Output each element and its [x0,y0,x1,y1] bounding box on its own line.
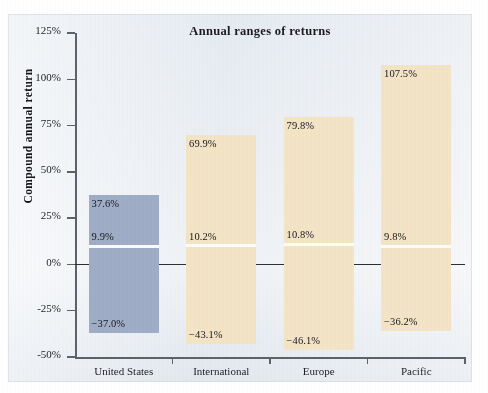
y-axis-tick-label: -50% [17,348,61,360]
x-axis-category-label: Europe [270,365,368,377]
x-axis-category-label: International [173,365,271,377]
bar-low-value-label: −37.0% [92,318,126,329]
bar-mid-value-label: 9.8% [384,231,406,242]
y-axis-tick-label: 75% [17,117,61,129]
x-axis-tick [464,357,465,364]
cut-off-caption-text [46,0,446,10]
y-axis-tick-label: 25% [17,209,61,221]
y-axis-tick: 100% [67,79,75,80]
bar-low-value-label: −46.1% [287,335,321,346]
y-axis-label: Compound annual return [22,66,34,206]
bar-high-value-label: 37.6% [92,198,120,209]
x-axis-tick [367,357,368,364]
y-axis-tick: 125% [67,32,75,33]
bar-low-value-label: −36.2% [384,316,418,327]
y-axis-tick-label: 50% [17,163,61,175]
bar-column[interactable]: 107.5%9.8%−36.2% [368,33,466,357]
y-axis-tick-label: 0% [17,256,61,268]
bar-median-divider [186,244,256,247]
bar-column[interactable]: 69.9%10.2%−43.1% [173,33,271,357]
bar-median-divider [381,245,451,248]
x-axis-category-label: Pacific [368,365,466,377]
bar-median-divider [89,245,159,248]
bar-range-rect[interactable] [381,65,451,331]
y-axis-tick-label: -25% [17,302,61,314]
bar-high-value-label: 69.9% [189,138,217,149]
bar-range-rect[interactable] [89,195,159,333]
y-axis-tick: -50% [67,356,75,357]
chart-page: Annual ranges of returns Compound annual… [0,0,488,393]
y-axis-tick-label: 100% [17,71,61,83]
x-axis-category-label: United States [75,365,173,377]
bar-median-divider [284,243,354,246]
y-axis-tick: 0% [67,264,75,265]
plot-area: 125%100%75%50%25%0%-25%-50% 37.6%9.9%−37… [75,33,465,357]
bar-low-value-label: −43.1% [189,329,223,340]
x-axis-tick [172,357,173,364]
y-axis-tick: 75% [67,125,75,126]
bar-column[interactable]: 79.8%10.8%−46.1% [270,33,368,357]
bar-mid-value-label: 9.9% [92,231,114,242]
bar-mid-value-label: 10.2% [189,231,217,242]
x-axis-tick [269,357,270,364]
y-axis-tick: -25% [67,310,75,311]
bar-high-value-label: 79.8% [287,120,315,131]
y-axis-tick-label: 125% [17,24,61,36]
y-axis-tick: 50% [67,171,75,172]
bar-mid-value-label: 10.8% [287,229,315,240]
bar-high-value-label: 107.5% [384,68,417,79]
y-axis-tick: 25% [67,217,75,218]
bar-column[interactable]: 37.6%9.9%−37.0% [75,33,173,357]
